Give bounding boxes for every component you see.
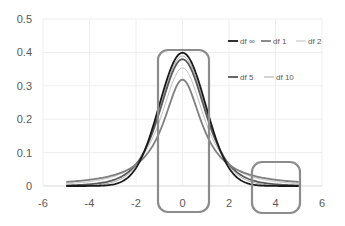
legend-item-df-5: df 5 [228,73,254,82]
x-tick-label: 0 [179,197,185,209]
legend-label: df 1 [273,37,287,46]
peak-highlight-box [158,50,209,212]
x-axis-ticks: -6-4-20246 [38,197,325,209]
legend-item-df-10: df 10 [264,73,294,82]
t-distribution-chart: 00.10.20.30.40.5 -6-4-20246 df ∞df 1df 2… [0,0,345,226]
x-tick-label: -2 [131,197,141,209]
legend-label: df 2 [308,37,322,46]
x-tick-label: 4 [272,197,278,209]
legend-item-df-∞: df ∞ [228,37,255,46]
legend-item-df-1: df 1 [261,37,287,46]
x-tick-label: 6 [319,197,325,209]
y-tick-label: 0.3 [17,80,32,92]
legend-label: df ∞ [240,37,255,46]
y-tick-label: 0 [26,180,32,192]
legend: df ∞df 1df 2df 5df 10 [228,37,322,82]
y-axis-ticks: 00.10.20.30.40.5 [17,13,32,192]
x-tick-label: -4 [85,197,95,209]
legend-item-df-2: df 2 [296,37,322,46]
legend-label: df 5 [240,73,254,82]
y-tick-label: 0.5 [17,13,32,25]
y-tick-label: 0.4 [17,46,32,58]
x-tick-label: -6 [38,197,48,209]
legend-label: df 10 [276,73,294,82]
x-tick-label: 2 [226,197,232,209]
y-tick-label: 0.2 [17,113,32,125]
y-tick-label: 0.1 [17,147,32,159]
